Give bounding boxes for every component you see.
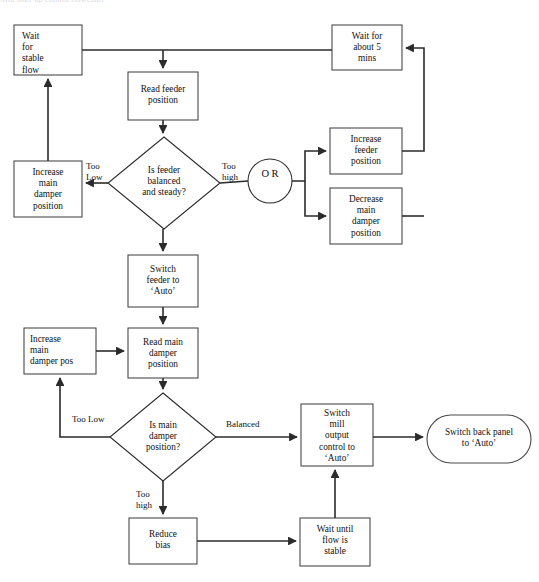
node-switch-mill-output [301, 404, 373, 466]
node-is-main-damper-position [110, 393, 216, 481]
edge-label-too-high-damper: Too high [136, 489, 152, 511]
node-is-feeder-balanced [108, 137, 220, 229]
node-shapes [14, 25, 531, 566]
edge-label-too-low-feeder: Too Low [86, 161, 103, 183]
connectors [48, 48, 424, 541]
node-wait-until-flow-stable [300, 518, 370, 566]
edge-label-too-low-damper: Too Low [72, 414, 105, 425]
node-increase-main-damper-position [14, 161, 82, 217]
node-reduce-bias [129, 518, 197, 564]
node-wait-stable-flow [14, 25, 82, 75]
node-or-junction [248, 159, 292, 203]
node-wait-5-mins [332, 25, 402, 70]
edge-label-balanced-damper: Balanced [226, 419, 259, 430]
node-read-feeder-position [128, 72, 198, 120]
edge-increase-feeder-return [402, 48, 424, 151]
edge-or-split-lower [305, 181, 326, 216]
node-decrease-main-damper [330, 188, 402, 244]
edge-label-too-high-feeder: Too high [222, 161, 238, 183]
flowchart-canvas [0, 0, 539, 582]
node-increase-main-damper-pos [24, 328, 96, 374]
node-read-main-damper-position [128, 328, 198, 378]
edge-diamond2-too-low [60, 378, 110, 437]
edge-or-split [292, 151, 326, 181]
node-increase-feeder-position [330, 128, 402, 174]
node-switch-feeder-auto [128, 255, 198, 307]
node-switch-back-panel [427, 415, 531, 463]
label-or-junction: O R [248, 168, 292, 180]
